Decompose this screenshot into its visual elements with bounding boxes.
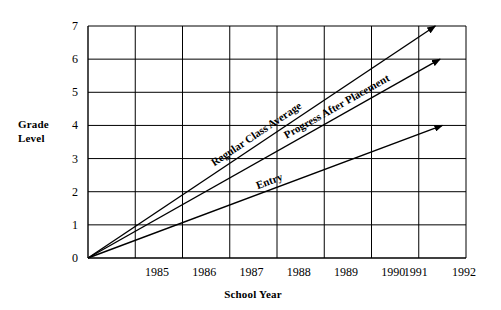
svg-text:1992: 1992 — [452, 265, 476, 279]
svg-text:5: 5 — [72, 85, 78, 99]
svg-text:7: 7 — [72, 19, 78, 33]
chart-figure: Grade Level School Year 0123456719851986… — [0, 0, 501, 310]
svg-text:1986: 1986 — [192, 265, 216, 279]
svg-text:1: 1 — [72, 218, 78, 232]
gridlines — [88, 26, 466, 258]
svg-text:2: 2 — [72, 185, 78, 199]
series-lines — [88, 26, 442, 258]
chart-plot-area: 0123456719851986198719881989199019911992… — [0, 0, 501, 310]
svg-text:1989: 1989 — [334, 265, 358, 279]
svg-text:1990: 1990 — [381, 265, 405, 279]
svg-text:1991: 1991 — [404, 265, 428, 279]
svg-text:1987: 1987 — [239, 265, 263, 279]
svg-text:3: 3 — [72, 152, 78, 166]
svg-text:4: 4 — [72, 118, 78, 132]
tick-labels: 0123456719851986198719881989199019911992 — [72, 19, 476, 279]
svg-text:1985: 1985 — [145, 265, 169, 279]
series-labels: Regular Class AverageProgress After Plac… — [209, 71, 392, 191]
svg-text:6: 6 — [72, 52, 78, 66]
series-label: Entry — [254, 170, 284, 191]
svg-text:1988: 1988 — [287, 265, 311, 279]
svg-text:0: 0 — [72, 251, 78, 265]
